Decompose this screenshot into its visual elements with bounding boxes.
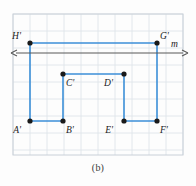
vertex-label-d-prime: D' bbox=[103, 78, 114, 88]
vertex-point-h-prime bbox=[27, 40, 32, 45]
vertex-label-c-prime: C' bbox=[66, 78, 75, 88]
line-m-label-text: m bbox=[171, 39, 178, 49]
vertex-label-a-prime: A' bbox=[12, 125, 22, 135]
vertex-point-b-prime bbox=[60, 118, 65, 123]
figure-container: A'B'C'D'E'F'G'H' m (b) bbox=[0, 0, 196, 186]
geometry-figure: A'B'C'D'E'F'G'H' m bbox=[0, 0, 196, 186]
figure-caption: (b) bbox=[0, 162, 196, 173]
vertex-label-h-prime: H' bbox=[11, 31, 22, 41]
vertex-point-a-prime bbox=[27, 118, 32, 123]
vertex-label-b-prime: B' bbox=[66, 125, 75, 135]
vertex-point-c-prime bbox=[60, 71, 65, 76]
vertex-point-g-prime bbox=[154, 40, 159, 45]
vertex-label-e-prime: E' bbox=[104, 125, 114, 135]
vertex-point-e-prime bbox=[121, 118, 126, 123]
vertex-label-g-prime: G' bbox=[160, 31, 170, 41]
vertex-point-d-prime bbox=[121, 71, 126, 76]
line-m-label: m bbox=[171, 39, 178, 49]
vertex-label-f-prime: F' bbox=[159, 125, 169, 135]
vertex-point-f-prime bbox=[154, 118, 159, 123]
